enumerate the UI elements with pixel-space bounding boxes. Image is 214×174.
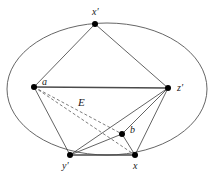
vertex-x	[132, 152, 138, 158]
edge-x-zprime	[135, 88, 168, 155]
polygon-vertices	[31, 21, 171, 158]
vertex-b	[119, 131, 125, 137]
vertex-label-x: x	[132, 160, 138, 171]
edge-a-yprime	[34, 87, 70, 155]
geometry-figure: x′az′by′x E	[0, 0, 214, 174]
vertex-label-x-prime: x′	[91, 6, 99, 17]
edge-xprime-zprime	[95, 24, 168, 88]
vertex-label-b: b	[130, 124, 135, 135]
vertex-y-prime	[67, 152, 73, 158]
vertex-a	[31, 84, 37, 90]
vertex-label-y-prime: y′	[61, 160, 69, 171]
vertex-label-z-prime: z′	[176, 82, 184, 93]
edge-b-x	[122, 134, 135, 155]
edge-b-zprime	[122, 88, 168, 134]
vertex-z-prime	[165, 85, 171, 91]
vertex-label-a: a	[42, 76, 47, 87]
edge-a-zprime	[34, 87, 168, 88]
polygon-edges	[34, 24, 168, 155]
region-label-group: E	[77, 96, 85, 108]
ellipse-region-label: E	[77, 96, 85, 108]
vertex-x-prime	[92, 21, 98, 27]
edge-a-b	[34, 87, 122, 134]
figure-canvas: x′az′by′x E	[0, 0, 214, 174]
